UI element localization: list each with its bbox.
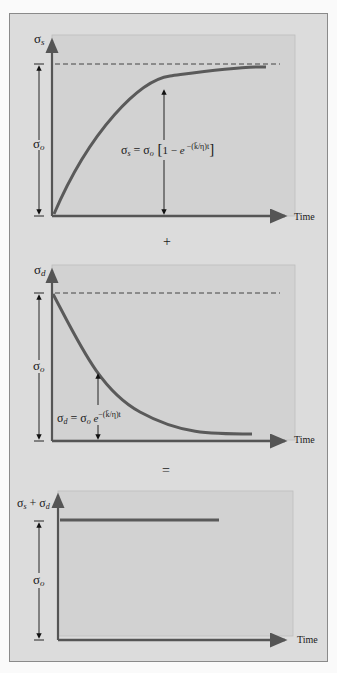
sigma-o-label: σo [33, 572, 45, 588]
sigma-o-label: σo [33, 358, 45, 374]
panel-sum: σo σs + σd Time [17, 491, 318, 645]
x-axis-label-time: Time [294, 434, 315, 445]
plus-operator: + [163, 234, 171, 249]
sigma-o-label: σo [33, 136, 45, 152]
equals-operator: = [162, 463, 170, 478]
y-axis-label-sigma-d: σd [34, 262, 46, 278]
plot-area [52, 265, 295, 440]
panel-spring: σo σs = σo [1 − e −(k̄/η)t] σs Time [33, 31, 315, 222]
figure-svg: σo σs = σo [1 − e −(k̄/η)t] σs Time + σo… [0, 0, 337, 673]
x-axis-label-time: Time [297, 634, 318, 645]
plot-area [52, 35, 295, 216]
plot-area [58, 491, 293, 636]
y-axis-label-sum: σs + σd [17, 496, 51, 511]
panel-dashpot: σo σd = σo e−(k̄/η)t σd Time [33, 262, 315, 445]
y-axis-label-sigma-s: σs [34, 31, 45, 47]
x-axis-label-time: Time [294, 211, 315, 222]
